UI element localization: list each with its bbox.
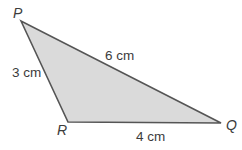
side-length-label-pq: 6 cm [105,49,134,63]
vertex-label-r: R [57,123,67,137]
side-length-label-rq: 4 cm [136,130,165,144]
side-length-label-pr: 3 cm [12,66,41,80]
triangle-pqr-shape [21,21,221,123]
vertex-label-q: Q [226,118,237,132]
geometry-figure: P R Q 6 cm 3 cm 4 cm [0,0,242,150]
vertex-label-p: P [13,6,23,20]
